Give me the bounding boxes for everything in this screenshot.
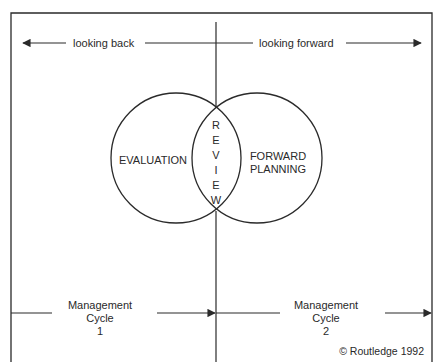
forward-planning-label-line2: PLANNING xyxy=(250,163,306,175)
diagram-canvas: looking back looking forward EVALUATION … xyxy=(0,0,439,362)
evaluation-label: EVALUATION xyxy=(119,154,187,166)
review-letter-w: W xyxy=(211,194,222,206)
looking-forward-label: looking forward xyxy=(259,37,334,49)
review-letter-e1: E xyxy=(212,134,219,146)
review-letter-i: I xyxy=(214,164,217,176)
cycle2-label-line1: Management xyxy=(294,299,358,311)
looking-back-label: looking back xyxy=(73,37,135,49)
review-letter-e2: E xyxy=(212,179,219,191)
cycle2-label-line2: Cycle xyxy=(312,312,340,324)
cycle1-label-line2: Cycle xyxy=(86,312,114,324)
forward-planning-label-line1: FORWARD xyxy=(250,150,306,162)
cycle2-label-line3: 2 xyxy=(323,325,329,337)
cycle1-label-line1: Management xyxy=(68,299,132,311)
cycle1-label-line3: 1 xyxy=(97,325,103,337)
copyright-text: © Routledge 1992 xyxy=(339,345,424,357)
review-letter-r: R xyxy=(212,119,220,131)
review-letter-v: V xyxy=(212,149,220,161)
